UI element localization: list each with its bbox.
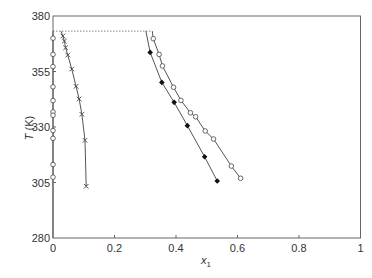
x-tick-label: 0.2 [107, 242, 122, 254]
circle-marker [51, 162, 56, 167]
y-axis-label-unit: (K) [23, 116, 35, 131]
circle-marker [238, 176, 243, 181]
series-open-circles [151, 31, 243, 180]
y-axis-ticks: 280305330355380 [32, 10, 56, 244]
y-tick-label: 355 [32, 66, 50, 78]
series-left-axis-circles [51, 31, 56, 238]
diamond-marker [202, 154, 208, 160]
y-tick-label: 280 [32, 232, 50, 244]
circle-marker [51, 113, 56, 118]
circle-marker [229, 164, 234, 169]
diamond-marker [214, 178, 220, 184]
circle-marker [193, 114, 198, 119]
circle-marker [51, 85, 56, 90]
y-axis-label: T (K) [23, 116, 35, 140]
chart: 00.20.40.60.81 280305330355380 x1 T (K) [0, 0, 372, 278]
data-series [51, 31, 243, 238]
diamond-marker [159, 80, 165, 86]
circle-marker [51, 64, 56, 69]
circle-marker [171, 85, 176, 90]
circle-marker [51, 36, 56, 41]
x-tick-label: 0.4 [168, 242, 183, 254]
x-axis-label: x1 [200, 254, 212, 269]
x-axis-label-subscript: 1 [207, 260, 212, 269]
circle-marker [51, 98, 56, 103]
circle-marker [203, 129, 208, 134]
circle-marker [151, 36, 156, 41]
circle-marker [51, 136, 56, 141]
circle-marker [157, 52, 162, 57]
circle-marker [188, 110, 193, 115]
y-axis-label-symbol: T [23, 130, 35, 140]
circle-marker [51, 52, 56, 57]
x-tick-label: 0.6 [230, 242, 245, 254]
series-line [152, 31, 240, 178]
circle-marker [179, 98, 184, 103]
circle-marker [211, 137, 216, 142]
x-tick-label: 1 [357, 242, 363, 254]
y-tick-label: 380 [32, 10, 50, 22]
series-crosses [61, 31, 89, 188]
circle-marker [51, 128, 56, 133]
y-tick-label: 305 [32, 177, 50, 189]
series-line [61, 31, 86, 186]
diamond-marker [185, 123, 191, 129]
diamond-marker [171, 100, 177, 106]
circle-marker [160, 64, 165, 69]
x-tick-label: 0 [50, 242, 56, 254]
circle-marker [51, 175, 56, 180]
diamond-marker [147, 50, 153, 56]
plot-frame [53, 16, 361, 238]
x-tick-label: 0.8 [291, 242, 306, 254]
